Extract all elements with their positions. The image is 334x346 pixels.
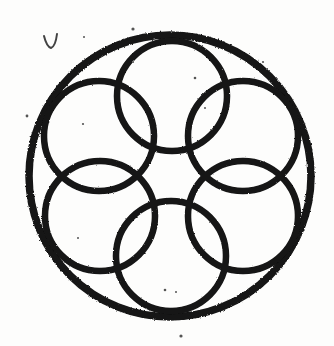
rosette-drawing — [0, 0, 334, 346]
speck — [77, 237, 79, 239]
speck — [262, 61, 264, 63]
figure-canvas: Six-Petal Rosette Geometric Figure A lar… — [0, 0, 334, 346]
speck — [194, 77, 197, 80]
speck — [179, 334, 182, 337]
speck — [175, 291, 177, 293]
speck — [83, 36, 85, 38]
speck — [131, 27, 134, 30]
speck — [26, 115, 29, 118]
speck — [204, 107, 206, 109]
speck — [82, 123, 84, 125]
speck — [164, 289, 167, 292]
